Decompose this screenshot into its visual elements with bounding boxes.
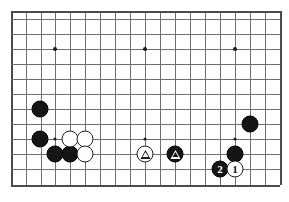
star-point-upper-center-icon (143, 47, 147, 51)
board-line-vertical (205, 11, 206, 185)
board-line-vertical (26, 11, 27, 185)
board-line-vertical (250, 11, 251, 185)
stone-black-left-side-upper[interactable] (32, 131, 49, 148)
stone-white-triangle-center[interactable] (137, 146, 154, 163)
board-line-vertical (130, 11, 131, 185)
stone-white-move-1[interactable]: 1 (227, 161, 244, 178)
star-point-center-icon (144, 138, 147, 141)
stone-black-upper-left-corner[interactable] (32, 101, 49, 118)
board-line-vertical (100, 11, 101, 185)
board-edge-vertical (11, 11, 13, 185)
board-line-vertical (160, 11, 161, 185)
star-point-left-side-icon (54, 138, 57, 141)
board-edge-horizontal (11, 11, 280, 13)
board-line-vertical (190, 11, 191, 185)
board-line-horizontal (11, 79, 280, 80)
board-line-horizontal (11, 64, 280, 65)
board-line-horizontal (11, 34, 280, 35)
stone-black-right-corner-upper[interactable] (242, 116, 259, 133)
board-edge-vertical (280, 11, 282, 185)
stone-white-left-group-c[interactable] (77, 146, 94, 163)
triangle-marker-inner-icon (172, 152, 178, 157)
board-line-horizontal (11, 124, 280, 125)
board-line-horizontal (11, 19, 280, 20)
triangle-marker-inner-icon (142, 152, 148, 157)
move-number-label: 2 (217, 164, 223, 175)
star-point-upper-right-icon (233, 47, 237, 51)
board-line-vertical (115, 11, 116, 185)
board-line-vertical (41, 11, 42, 185)
board-edge-horizontal (11, 185, 280, 187)
stone-black-triangle-center[interactable] (167, 146, 184, 163)
board-line-vertical (265, 11, 266, 185)
star-point-upper-left-icon (53, 47, 57, 51)
go-diagram: 21 (0, 0, 289, 202)
go-board[interactable]: 21 (11, 11, 280, 185)
move-number-label: 1 (232, 164, 238, 175)
star-point-right-side-icon (234, 138, 237, 141)
board-line-horizontal (11, 94, 280, 95)
board-line-horizontal (11, 109, 280, 110)
board-line-vertical (220, 11, 221, 185)
